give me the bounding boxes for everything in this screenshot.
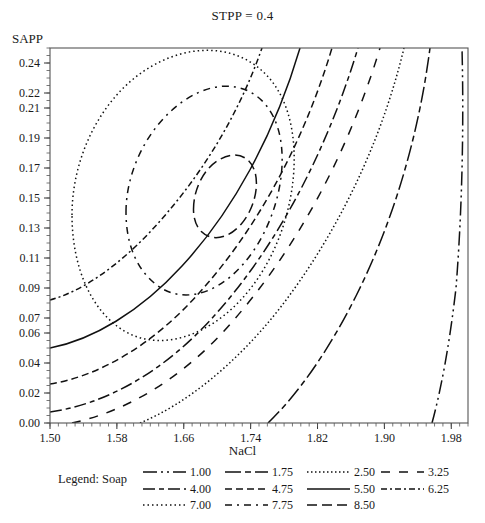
legend-label: 8.50: [354, 498, 375, 512]
legend-label: 5.50: [354, 482, 375, 496]
legend-label: 3.25: [428, 465, 449, 479]
contour-line: [50, 48, 300, 348]
contour-line: [432, 48, 463, 423]
contour-line: [194, 155, 257, 238]
y-tick-label: 0.04: [19, 356, 40, 370]
y-tick-label: 0.24: [19, 56, 40, 70]
legend-label: 7.00: [190, 498, 211, 512]
plot-frame: [50, 48, 468, 423]
y-tick-label: 0.06: [19, 326, 40, 340]
contour-plot-figure: STPP = 0.4 SAPP NaCl Legend: Soap 1.501.…: [0, 0, 485, 523]
legend-title: Legend: Soap: [58, 472, 127, 487]
y-tick-label: 0.13: [19, 221, 40, 235]
y-tick-label: 0.21: [19, 101, 40, 115]
legend-label: 2.50: [354, 465, 375, 479]
legend-entries: 1.001.752.503.254.004.755.506.257.007.75…: [143, 465, 449, 512]
legend-label: 4.00: [190, 482, 211, 496]
y-tick-label: 0.02: [19, 386, 40, 400]
contour-line: [126, 86, 282, 295]
y-tick-label: 0.22: [19, 86, 40, 100]
y-tick-label: 0.15: [19, 191, 40, 205]
y-tick-label: 0.09: [19, 281, 40, 295]
y-tick-label: 0.00: [19, 416, 40, 430]
y-tick-label: 0.07: [19, 311, 40, 325]
contour-line: [72, 50, 294, 340]
y-axis-label: SAPP: [12, 31, 43, 47]
contour-line: [50, 48, 262, 300]
legend-label: 4.75: [272, 482, 293, 496]
contour-line: [72, 48, 380, 423]
legend-label: 7.75: [272, 498, 293, 512]
legend-label: 6.25: [428, 482, 449, 496]
chart-title: STPP = 0.4: [0, 8, 485, 24]
y-tick-label: 0.11: [19, 251, 40, 265]
y-axis-ticks: 0.000.020.040.060.070.090.110.130.150.17…: [19, 56, 50, 430]
legend-label: 1.75: [272, 465, 293, 479]
contour-line: [140, 48, 404, 423]
contour-lines: [50, 48, 463, 423]
x-axis-label: NaCl: [0, 443, 485, 459]
y-tick-label: 0.19: [19, 131, 40, 145]
legend-label: 1.00: [190, 465, 211, 479]
y-tick-label: 0.17: [19, 161, 40, 175]
contour-line: [50, 48, 358, 412]
contour-line: [268, 48, 430, 423]
